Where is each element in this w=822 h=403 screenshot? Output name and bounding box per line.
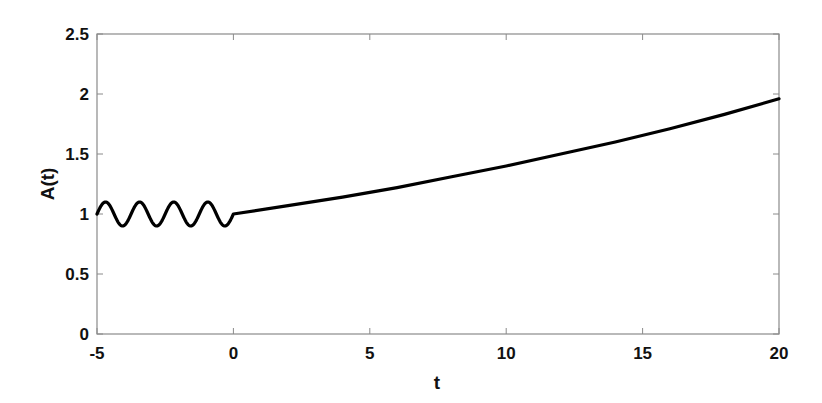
x-tick-label: 0 <box>229 344 238 363</box>
x-axis-tick-labels: -505101520 <box>89 344 788 363</box>
y-tick-label: 1 <box>80 205 89 224</box>
y-tick-label: 1.5 <box>65 145 89 164</box>
x-tick-label: 15 <box>633 344 652 363</box>
y-axis-ticks <box>97 34 779 334</box>
y-axis-label: A(t) <box>37 168 58 201</box>
plot-frame <box>97 34 779 334</box>
axes-box <box>97 34 779 334</box>
line-chart: -505101520 00.511.522.5 t A(t) <box>0 0 822 403</box>
y-tick-label: 2.5 <box>65 25 89 44</box>
x-tick-label: 5 <box>365 344 374 363</box>
x-axis-label: t <box>434 372 441 393</box>
x-axis-ticks <box>97 34 779 334</box>
y-axis-tick-labels: 00.511.522.5 <box>65 25 89 344</box>
y-tick-label: 0.5 <box>65 265 89 284</box>
y-tick-label: 2 <box>80 85 89 104</box>
x-tick-label: 20 <box>770 344 789 363</box>
data-line-a-of-t <box>97 99 779 226</box>
y-tick-label: 0 <box>80 325 89 344</box>
x-tick-label: -5 <box>89 344 104 363</box>
x-tick-label: 10 <box>497 344 516 363</box>
